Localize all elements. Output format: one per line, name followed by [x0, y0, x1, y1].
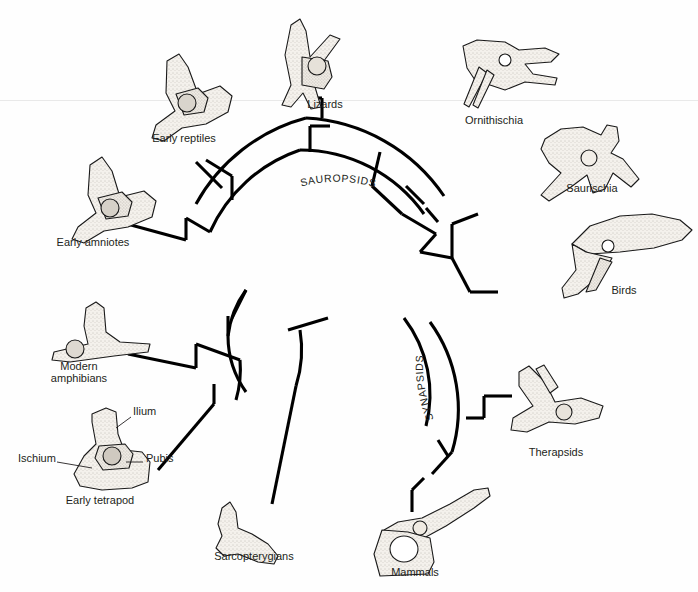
branch-dino-node-b — [420, 234, 436, 252]
clade-label-synapsids: SYNAPSIDS — [413, 355, 436, 423]
taxon-label-therapsids: Therapsids — [506, 446, 606, 458]
branch-inner-diagonal — [288, 318, 328, 330]
branch-root-arc-b — [228, 336, 246, 392]
taxon-label-saurischia: Saurischia — [542, 182, 642, 194]
anatomy-label-ischium: Ischium — [18, 452, 56, 464]
bone-mammals — [374, 488, 490, 576]
branch-dino-split — [420, 252, 452, 258]
branch-to-saurischia — [452, 214, 478, 224]
branch-amphibian-connector — [196, 344, 240, 360]
bone-therapsids — [511, 365, 603, 432]
taxon-label-mammals: Mammals — [370, 566, 460, 578]
taxon-label-early-amniotes: Early amniotes — [43, 236, 143, 248]
taxon-label-lizards: Lizards — [285, 98, 365, 110]
branch-ornithischia-down — [372, 186, 402, 214]
node-amniote-stub — [186, 218, 210, 232]
branch-archosaur-stub2 — [426, 208, 438, 222]
anatomy-label-ilium: Ilium — [133, 405, 156, 417]
bone-early-reptiles — [152, 54, 232, 141]
bone-illustrations — [52, 19, 692, 576]
arc-amniote-lower — [210, 150, 300, 232]
branch-root-stem-arc — [296, 330, 302, 386]
branch-to-mammals — [412, 478, 424, 490]
arc-synapsid-inner — [430, 322, 458, 452]
branch-synapsid-node — [438, 440, 448, 456]
anatomy-label-pubis: Pubis — [146, 452, 174, 464]
bone-lizards — [282, 19, 340, 109]
leader-ilium — [116, 417, 131, 428]
arc-sauropsid-a — [196, 118, 306, 204]
branch-birds-riser — [452, 258, 470, 292]
taxon-label-modern-amphibians-line2: amphibians — [51, 372, 107, 384]
cladogram-branches — [120, 98, 512, 512]
clade-label-sauropsids: SAUROPSIDS — [299, 172, 378, 189]
node-stub-inner — [232, 290, 246, 318]
taxon-label-birds: Birds — [589, 284, 659, 296]
bone-early-tetrapod — [74, 408, 150, 490]
taxon-label-early-reptiles: Early reptiles — [134, 132, 234, 144]
branch-to-modern-amphibians — [128, 354, 196, 368]
taxon-label-sarcopterygians: Sarcopterygians — [189, 550, 319, 562]
taxon-label-modern-amphibians-line1: Modern — [60, 360, 97, 372]
taxon-label-early-tetrapod: Early tetrapod — [45, 494, 155, 506]
bone-early-amniotes — [72, 157, 156, 243]
bone-ornithischia — [463, 40, 559, 108]
bone-modern-amphibians — [52, 302, 150, 362]
taxon-label-ornithischia: Ornithischia — [444, 114, 544, 126]
taxon-label-modern-amphibians: Modernamphibians — [29, 360, 129, 384]
figure-canvas: SAUROPSIDS SYNAPSIDS — [0, 0, 698, 592]
branch-dino-node — [402, 214, 436, 234]
branch-to-sarcopterygians — [272, 386, 296, 504]
